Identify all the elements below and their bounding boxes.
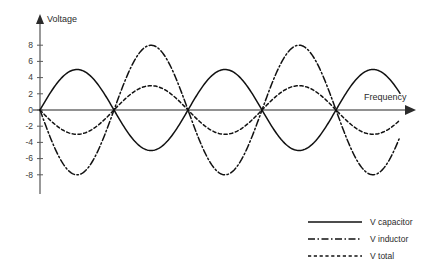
- legend-label: V total: [370, 251, 394, 261]
- legend-label: V inductor: [370, 234, 408, 244]
- voltage-frequency-chart: Voltage Frequency 86420-2-4-6-8 V capaci…: [0, 0, 425, 266]
- y-axis-title: Voltage: [47, 14, 77, 24]
- x-axis-arrowhead: [405, 105, 416, 115]
- y-tick-label: -4: [25, 137, 33, 147]
- legend-label: V capacitor: [370, 217, 413, 227]
- y-tick-label: 4: [28, 72, 33, 82]
- y-tick-label: -6: [25, 153, 33, 163]
- y-tick-label: -2: [25, 121, 33, 131]
- y-tick-label: 8: [28, 40, 33, 50]
- legend: V capacitorV inductorV total: [308, 217, 413, 261]
- y-tick-label: -8: [25, 170, 33, 180]
- y-tick-label: 0: [28, 105, 33, 115]
- y-tick-label: 6: [28, 56, 33, 66]
- chart-container: Voltage Frequency 86420-2-4-6-8 V capaci…: [0, 0, 425, 266]
- y-tick-label: 2: [28, 89, 33, 99]
- x-axis-group: Frequency: [33, 92, 416, 115]
- y-axis-group: Voltage: [36, 14, 77, 194]
- y-axis-arrowhead: [36, 14, 44, 24]
